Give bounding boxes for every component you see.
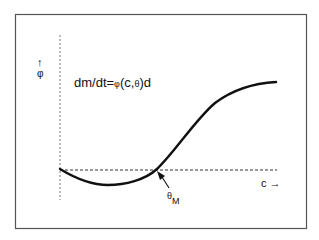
diagram-graphics [0, 0, 319, 240]
x-axis-label: c → [261, 178, 281, 189]
frame-border [16, 15, 307, 229]
theta-pointer-arrowhead-icon [157, 171, 165, 180]
theta-pointer-line [162, 177, 169, 188]
diagram: dm/dt=φ(c,θ)d ↑ φ c → θM [0, 0, 319, 240]
theta-m-label: θM [167, 192, 180, 206]
y-axis-label: φ [37, 69, 43, 79]
y-axis-up-arrow-icon: ↑ [37, 57, 43, 68]
equation-label: dm/dt=φ(c,θ)d [74, 76, 151, 89]
